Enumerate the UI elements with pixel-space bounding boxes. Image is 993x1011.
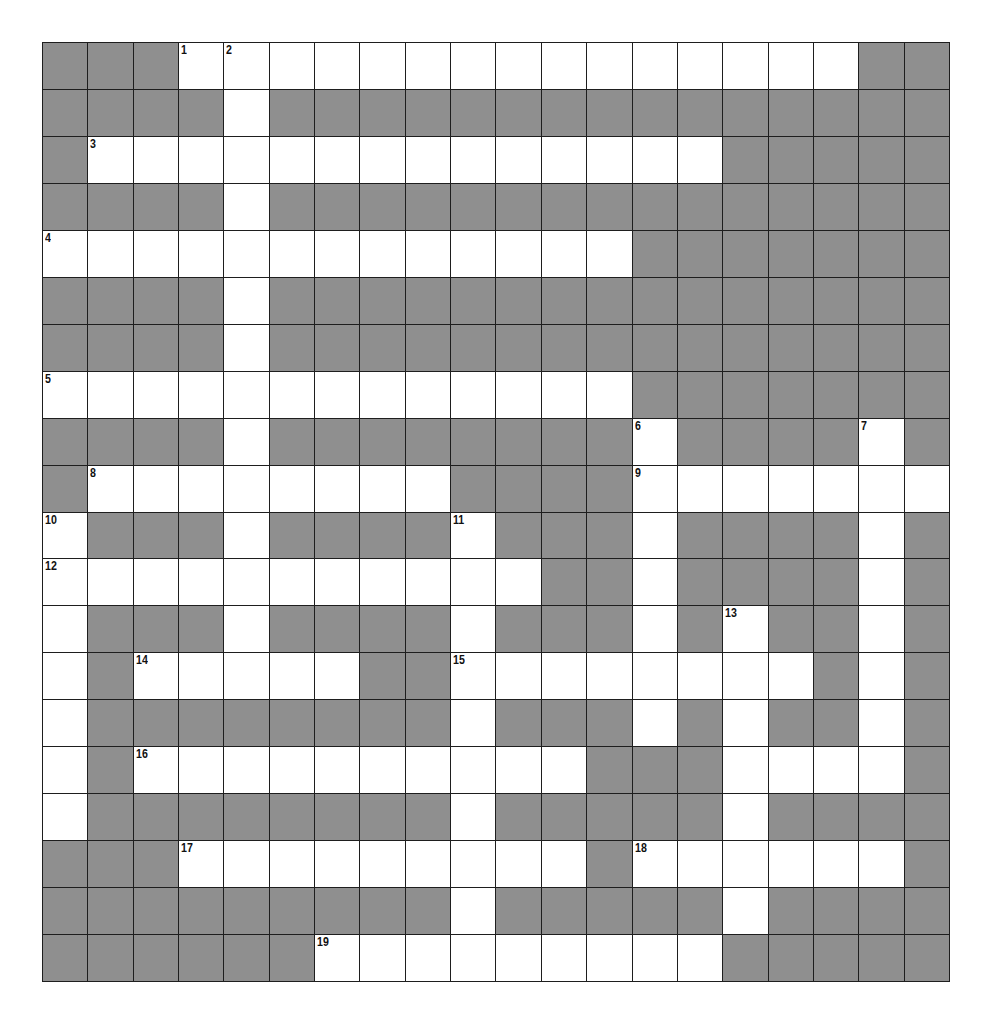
crossword-cell[interactable]	[451, 606, 495, 652]
crossword-cell[interactable]	[451, 700, 495, 746]
crossword-cell[interactable]	[814, 841, 858, 887]
crossword-cell[interactable]	[859, 513, 903, 559]
crossword-cell[interactable]	[633, 653, 677, 699]
crossword-cell[interactable]	[270, 466, 314, 512]
crossword-cell[interactable]	[496, 372, 540, 418]
crossword-cell[interactable]	[315, 559, 359, 605]
crossword-cell[interactable]	[224, 559, 268, 605]
crossword-cell[interactable]	[360, 231, 404, 277]
crossword-cell[interactable]	[496, 43, 540, 89]
crossword-cell[interactable]	[134, 137, 178, 183]
crossword-cell[interactable]	[406, 466, 450, 512]
crossword-cell[interactable]	[315, 747, 359, 793]
crossword-cell[interactable]	[360, 466, 404, 512]
crossword-cell[interactable]	[406, 935, 450, 981]
crossword-cell[interactable]	[587, 372, 631, 418]
crossword-cell[interactable]: 12	[43, 559, 87, 605]
crossword-cell[interactable]: 8	[88, 466, 132, 512]
crossword-cell[interactable]	[43, 653, 87, 699]
crossword-cell[interactable]	[633, 137, 677, 183]
crossword-cell[interactable]	[179, 231, 223, 277]
crossword-cell[interactable]	[723, 794, 767, 840]
crossword-cell[interactable]	[134, 559, 178, 605]
crossword-cell[interactable]	[224, 841, 268, 887]
crossword-cell[interactable]	[451, 559, 495, 605]
crossword-cell[interactable]	[496, 137, 540, 183]
crossword-cell[interactable]	[496, 747, 540, 793]
crossword-cell[interactable]	[179, 747, 223, 793]
crossword-cell[interactable]	[723, 700, 767, 746]
crossword-cell[interactable]	[88, 372, 132, 418]
crossword-cell[interactable]	[224, 184, 268, 230]
crossword-cell[interactable]	[224, 278, 268, 324]
crossword-cell[interactable]	[179, 466, 223, 512]
crossword-cell[interactable]	[451, 888, 495, 934]
crossword-cell[interactable]	[270, 841, 314, 887]
crossword-cell[interactable]	[270, 372, 314, 418]
crossword-cell[interactable]	[43, 747, 87, 793]
crossword-cell[interactable]	[542, 231, 586, 277]
crossword-cell[interactable]	[451, 794, 495, 840]
crossword-cell[interactable]	[633, 43, 677, 89]
crossword-cell[interactable]: 18	[633, 841, 677, 887]
crossword-cell[interactable]	[406, 841, 450, 887]
crossword-cell[interactable]	[360, 747, 404, 793]
crossword-cell[interactable]	[905, 466, 949, 512]
crossword-cell[interactable]	[633, 606, 677, 652]
crossword-cell[interactable]	[224, 606, 268, 652]
crossword-cell[interactable]	[451, 231, 495, 277]
crossword-cell[interactable]	[542, 653, 586, 699]
crossword-cell[interactable]	[88, 231, 132, 277]
crossword-cell[interactable]	[315, 43, 359, 89]
crossword-cell[interactable]	[814, 43, 858, 89]
crossword-cell[interactable]	[315, 653, 359, 699]
crossword-cell[interactable]	[451, 43, 495, 89]
crossword-cell[interactable]	[315, 841, 359, 887]
crossword-cell[interactable]: 14	[134, 653, 178, 699]
crossword-cell[interactable]: 7	[859, 419, 903, 465]
crossword-cell[interactable]	[134, 372, 178, 418]
crossword-cell[interactable]	[315, 466, 359, 512]
crossword-cell[interactable]	[633, 700, 677, 746]
crossword-cell[interactable]	[678, 137, 722, 183]
crossword-cell[interactable]	[496, 841, 540, 887]
crossword-cell[interactable]: 15	[451, 653, 495, 699]
crossword-cell[interactable]	[315, 137, 359, 183]
crossword-cell[interactable]	[360, 43, 404, 89]
crossword-cell[interactable]	[43, 606, 87, 652]
crossword-cell[interactable]: 10	[43, 513, 87, 559]
crossword-cell[interactable]	[224, 419, 268, 465]
crossword-cell[interactable]	[723, 466, 767, 512]
crossword-cell[interactable]	[270, 559, 314, 605]
crossword-cell[interactable]	[270, 231, 314, 277]
crossword-cell[interactable]	[678, 653, 722, 699]
crossword-cell[interactable]	[859, 747, 903, 793]
crossword-cell[interactable]: 6	[633, 419, 677, 465]
crossword-cell[interactable]	[496, 653, 540, 699]
crossword-cell[interactable]	[406, 559, 450, 605]
crossword-cell[interactable]	[360, 935, 404, 981]
crossword-cell[interactable]	[769, 466, 813, 512]
crossword-cell[interactable]	[678, 841, 722, 887]
crossword-cell[interactable]	[587, 137, 631, 183]
crossword-cell[interactable]	[406, 231, 450, 277]
crossword-cell[interactable]	[542, 372, 586, 418]
crossword-cell[interactable]	[270, 137, 314, 183]
crossword-cell[interactable]	[360, 372, 404, 418]
crossword-cell[interactable]	[315, 231, 359, 277]
crossword-cell[interactable]	[542, 43, 586, 89]
crossword-cell[interactable]	[406, 747, 450, 793]
crossword-cell[interactable]	[542, 747, 586, 793]
crossword-cell[interactable]: 13	[723, 606, 767, 652]
crossword-cell[interactable]	[587, 43, 631, 89]
crossword-cell[interactable]: 1	[179, 43, 223, 89]
crossword-cell[interactable]	[360, 841, 404, 887]
crossword-cell[interactable]	[270, 43, 314, 89]
crossword-cell[interactable]	[769, 653, 813, 699]
crossword-cell[interactable]	[179, 372, 223, 418]
crossword-cell[interactable]	[224, 466, 268, 512]
crossword-cell[interactable]	[134, 231, 178, 277]
crossword-cell[interactable]	[723, 747, 767, 793]
crossword-cell[interactable]	[633, 559, 677, 605]
crossword-cell[interactable]	[678, 935, 722, 981]
